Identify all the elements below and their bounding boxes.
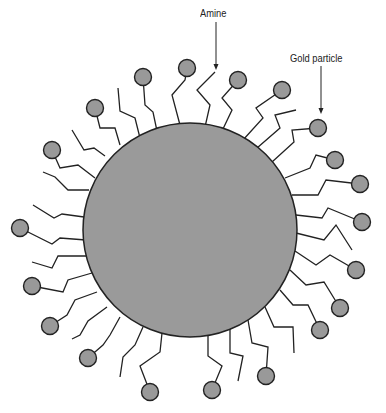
gold-particle-ball	[310, 120, 327, 137]
amine-chain	[296, 225, 352, 250]
amine-chain	[33, 205, 84, 218]
amine-chain	[120, 327, 143, 377]
amine-chain	[72, 130, 105, 156]
gold-core	[83, 123, 297, 337]
gold-particle-ball	[42, 318, 59, 335]
ligand-chain	[290, 270, 340, 308]
amine-chain	[230, 328, 243, 381]
gold-particle-ball	[230, 72, 247, 89]
gold-particle-ball	[327, 152, 344, 169]
ligand-chain	[32, 273, 92, 292]
gold-particle-ball	[354, 214, 371, 231]
gold-particle-ball	[352, 176, 369, 193]
gold-particle-ball	[87, 100, 104, 117]
amine-chain	[118, 88, 140, 138]
gold-particle-ball	[44, 142, 61, 159]
amine-arrow-head-icon	[214, 64, 219, 70]
gold-particle-label: Gold particle	[290, 52, 343, 64]
amine-label: Amine	[200, 7, 227, 19]
gold-particle-ball	[312, 322, 329, 339]
gold-particle-ball	[179, 60, 196, 77]
gold-particle-ball	[204, 382, 221, 399]
amine-chain	[257, 110, 296, 148]
gold-particle-ball	[12, 220, 29, 237]
gold-particle-ball	[332, 300, 349, 317]
gold-particle-ball	[80, 350, 97, 367]
gold-particle-ball	[274, 82, 291, 99]
gold-particle-ball	[24, 278, 41, 295]
gold-particle-ball	[142, 384, 159, 401]
gold-particle-ball	[348, 262, 365, 279]
ligand-chain	[296, 208, 362, 222]
ligand-chain	[20, 228, 86, 244]
gold-particle-ball	[258, 368, 275, 385]
amine-chain	[72, 307, 107, 339]
amine-chain	[32, 256, 87, 268]
nanoparticle-diagram: Amine Gold particle	[0, 0, 386, 413]
gold-particle-ball	[135, 69, 152, 86]
ligand-chain	[295, 251, 356, 270]
amine-chain	[43, 172, 89, 190]
amine-chain	[265, 307, 294, 353]
amine-chain	[197, 72, 215, 127]
gold-arrow-head-icon	[319, 108, 324, 114]
ligand-chain	[292, 180, 360, 195]
